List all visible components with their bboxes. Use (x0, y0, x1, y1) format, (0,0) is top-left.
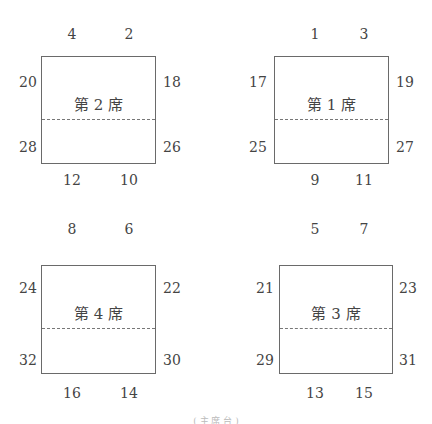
seat-21: 21 (251, 280, 279, 296)
seat-14: 14 (115, 385, 143, 401)
stage-caption: ( 主 席 台 ) (0, 414, 432, 424)
seat-20: 20 (14, 74, 42, 90)
table-1-box: 第 1 席 (274, 56, 389, 164)
seat-2: 2 (115, 26, 143, 42)
table-1-divider (275, 119, 388, 120)
seat-31: 31 (394, 352, 422, 368)
seat-19: 19 (391, 74, 419, 90)
seat-15: 15 (350, 385, 378, 401)
table-2-box: 第 2 席 (41, 56, 156, 164)
seat-6: 6 (115, 221, 143, 237)
seat-7: 7 (350, 221, 378, 237)
seat-8: 8 (58, 221, 86, 237)
seat-10: 10 (115, 172, 143, 188)
seat-29: 29 (251, 352, 279, 368)
seat-9: 9 (301, 172, 329, 188)
seat-17: 17 (244, 74, 272, 90)
seat-18: 18 (158, 74, 186, 90)
table-4-label: 第 4 席 (42, 302, 155, 323)
seat-13: 13 (301, 385, 329, 401)
seat-24: 24 (14, 280, 42, 296)
seat-25: 25 (244, 139, 272, 155)
table-3-box: 第 3 席 (279, 265, 393, 374)
table-3-label: 第 3 席 (280, 302, 392, 323)
table-2-divider (42, 119, 155, 120)
seat-1: 1 (301, 26, 329, 42)
seat-26: 26 (158, 139, 186, 155)
seat-4: 4 (58, 26, 86, 42)
table-4-box: 第 4 席 (41, 265, 156, 374)
seat-27: 27 (391, 139, 419, 155)
table-3-divider (280, 328, 392, 329)
seat-28: 28 (14, 139, 42, 155)
seat-3: 3 (350, 26, 378, 42)
seat-16: 16 (58, 385, 86, 401)
seat-11: 11 (350, 172, 378, 188)
seat-23: 23 (394, 280, 422, 296)
seat-5: 5 (301, 221, 329, 237)
seat-12: 12 (58, 172, 86, 188)
seat-30: 30 (158, 352, 186, 368)
table-1-label: 第 1 席 (275, 93, 388, 114)
table-4-divider (42, 328, 155, 329)
table-2-label: 第 2 席 (42, 93, 155, 114)
seat-32: 32 (14, 352, 42, 368)
seat-22: 22 (158, 280, 186, 296)
